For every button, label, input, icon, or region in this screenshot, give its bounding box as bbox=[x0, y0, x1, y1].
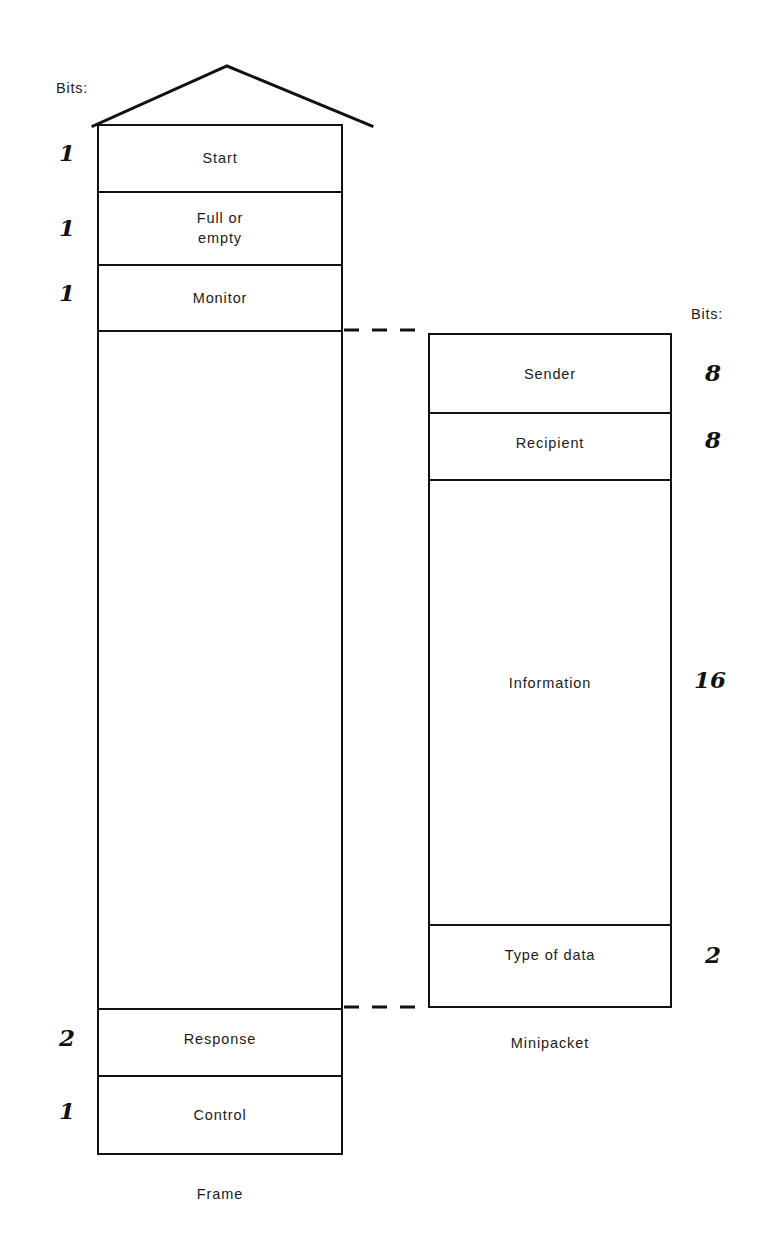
minipacket-bit-count-information: 16 bbox=[693, 666, 727, 693]
minipacket-field-label-information: Information bbox=[430, 673, 670, 693]
minipacket-caption: Minipacket bbox=[428, 1035, 672, 1051]
minipacket-field-label-type-of-data: Type of data bbox=[430, 945, 670, 965]
diagram-canvas: Bits: Start Full or empty Monitor Respon… bbox=[0, 0, 767, 1257]
minipacket-field-label-recipient: Recipient bbox=[430, 433, 670, 453]
minipacket-bit-count-recipient: 8 bbox=[696, 426, 730, 453]
minipacket-bits-heading: Bits: bbox=[691, 306, 723, 322]
minipacket-bit-count-sender: 8 bbox=[696, 359, 730, 386]
minipacket-box: Sender Recipient Information Type of dat… bbox=[428, 333, 672, 1008]
minipacket-bit-count-type-of-data: 2 bbox=[696, 941, 730, 968]
minipacket-divider-information bbox=[430, 924, 670, 926]
minipacket-field-label-sender: Sender bbox=[430, 364, 670, 384]
minipacket-divider-sender bbox=[430, 412, 670, 414]
minipacket-divider-recipient bbox=[430, 479, 670, 481]
